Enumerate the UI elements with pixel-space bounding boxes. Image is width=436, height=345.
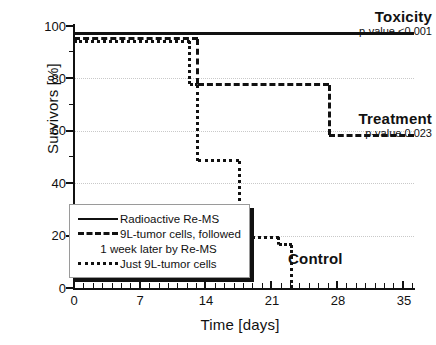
x-tick-15 [215,283,216,289]
x-tick-5 [121,283,122,289]
legend-label-control: Just 9L-tumor cells [120,258,217,270]
legend-row-dotted: Just 9L-tumor cells [76,256,241,271]
annotation-treatment-label: Treatment [262,110,432,127]
legend-row-solid: Radioactive Re-MS [76,211,241,226]
y-tick-80 [66,77,74,79]
legend-row-dashed: 9L-tumor cells, followed [76,226,241,241]
x-tick-12 [187,283,188,289]
x-tick-18 [243,283,244,289]
x-tick-24 [299,283,300,289]
x-tick-4 [112,283,113,289]
x-tick-26 [318,283,319,289]
x-tick-11 [177,283,178,289]
x-tick-16 [224,283,225,289]
x-tick-label-7: 7 [120,293,160,308]
annotation-treatment: Treatment p-value 0.023 [262,110,432,139]
legend-row-continuation: 1 week later by Re-MS [76,241,241,256]
x-tick-0 [73,281,75,290]
y-tick-label-80: 80 [26,71,66,86]
y-tick-40 [66,182,74,184]
legend-key-dashed-line-icon [76,232,120,235]
x-tick-3 [102,283,103,289]
x-tick-10 [168,283,169,289]
series-2-hseg-0 [74,40,190,43]
series-2-hseg-4 [198,159,239,162]
x-tick-label-0: 0 [54,293,94,308]
x-tick-14 [204,281,206,290]
y-tick-label-20: 20 [26,228,66,243]
x-tick-7 [139,281,141,290]
legend-key-dotted-line-icon [76,262,120,265]
x-tick-33 [384,283,385,289]
series-2-vseg-3 [196,85,199,161]
x-tick-35 [402,281,404,290]
x-axis-title: Time [days] [60,316,420,333]
x-tick-2 [93,283,94,289]
x-tick-19 [252,283,253,289]
x-tick-31 [365,283,366,289]
annotation-toxicity-label: Toxicity [262,8,432,25]
y-tick-label-100: 100 [26,19,66,34]
series-1-hseg-2 [198,83,329,86]
y-tick-70 [69,104,74,105]
x-tick-29 [346,283,347,289]
legend-box: Radioactive Re-MS 9L-tumor cells, follow… [69,204,250,278]
annotation-toxicity: Toxicity p-value <0.001 [262,8,432,37]
x-tick-6 [130,283,131,289]
x-tick-8 [149,283,150,289]
y-tick-label-60: 60 [26,123,66,138]
y-tick-60 [66,130,74,132]
x-tick-label-21: 21 [252,293,292,308]
survival-curve-figure: Survivors [%] Time [days] 100 80 60 40 2… [0,0,436,345]
annotation-control-label: Control [288,250,343,267]
x-tick-label-14: 14 [186,293,226,308]
x-tick-36 [412,283,413,289]
x-tick-21 [270,281,272,290]
x-tick-30 [356,283,357,289]
y-tick-50 [69,156,74,157]
gridline-80 [74,78,414,79]
y-tick-100 [66,25,74,27]
annotation-toxicity-pvalue: p-value <0.001 [262,25,432,37]
annotation-control: Control [288,250,343,267]
x-tick-34 [393,283,394,289]
x-tick-1 [83,283,84,289]
legend-key-solid-line-icon [76,218,120,220]
x-tick-20 [262,283,263,289]
legend-label-treatment: 9L-tumor cells, followed [120,228,241,240]
x-tick-label-28: 28 [318,293,358,308]
x-tick-27 [328,283,329,289]
gridline-40 [74,183,414,184]
x-tick-13 [196,283,197,289]
series-2-vseg-1 [188,41,191,84]
x-tick-label-35: 35 [384,293,424,308]
x-tick-22 [281,283,282,289]
x-tick-17 [234,283,235,289]
y-tick-label-40: 40 [26,176,66,191]
x-tick-28 [336,281,338,290]
y-tick-90 [69,51,74,52]
legend-label-radioactive-re-ms: Radioactive Re-MS [120,213,219,225]
legend-label-treatment-cont: 1 week later by Re-MS [76,243,241,255]
x-tick-9 [159,283,160,289]
x-tick-32 [375,283,376,289]
series-1-vseg-1 [196,39,199,85]
x-tick-25 [309,283,310,289]
annotation-treatment-pvalue: p-value 0.023 [262,127,432,139]
